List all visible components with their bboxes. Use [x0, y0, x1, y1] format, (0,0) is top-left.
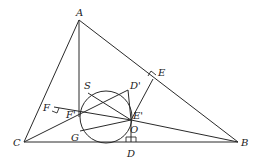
label-f-prime: F' — [65, 109, 76, 120]
label-o: O — [130, 124, 138, 135]
side-ab — [79, 20, 238, 142]
side-ac — [24, 20, 79, 142]
circle — [80, 91, 132, 143]
right-angle-f — [52, 108, 59, 113]
label-e: E — [157, 67, 166, 78]
label-f: F — [42, 102, 51, 113]
label-b: B — [240, 137, 248, 148]
label-d-prime: D' — [129, 80, 141, 91]
label-a: A — [75, 7, 83, 18]
label-c: C — [13, 137, 21, 148]
segment-o-b — [131, 120, 238, 142]
geometry-diagram: A B C D E F O S D' E' F' G — [0, 0, 262, 164]
segment-dprime-o — [128, 90, 131, 120]
label-s: S — [84, 80, 91, 91]
label-e-prime: E' — [132, 110, 143, 121]
label-g: G — [71, 132, 79, 143]
segment-g-o — [80, 120, 131, 131]
label-d: D — [126, 148, 135, 159]
right-angle-e — [148, 71, 156, 76]
